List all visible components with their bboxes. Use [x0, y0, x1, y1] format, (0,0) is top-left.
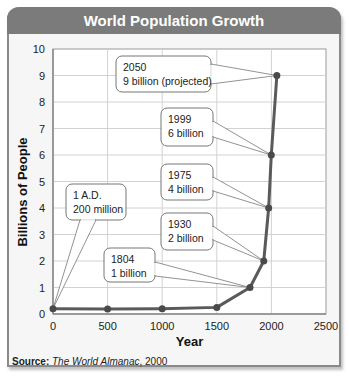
x-axis-label: Year — [176, 334, 203, 349]
data-point — [268, 152, 275, 159]
source-title: The World Almanac — [52, 356, 139, 367]
callout-line2: 4 billion — [168, 183, 204, 195]
y-tick-label: 2 — [39, 255, 45, 267]
callout-line2: 1 billion — [111, 267, 147, 279]
y-tick-label: 1 — [39, 282, 45, 294]
y-tick-label: 4 — [39, 202, 45, 214]
callout-line1: 1930 — [168, 218, 192, 230]
data-point — [104, 305, 111, 312]
y-tick-label: 10 — [33, 43, 45, 55]
data-point — [265, 205, 272, 212]
data-point — [246, 284, 253, 291]
source-year: , 2000 — [139, 356, 167, 367]
data-point — [159, 305, 166, 312]
callout-line1: 1804 — [111, 253, 135, 265]
source-note: Source: The World Almanac, 2000 — [12, 356, 167, 367]
y-tick-label: 3 — [39, 229, 45, 241]
data-point — [50, 305, 57, 312]
data-point — [213, 304, 220, 311]
x-tick-label: 2500 — [314, 320, 338, 332]
line-chart: 01234567891005001000150020002500YearBill… — [0, 0, 349, 381]
callout-line1: 2050 — [123, 61, 147, 73]
callout-line1: 1975 — [168, 169, 192, 181]
x-tick-label: 0 — [50, 320, 56, 332]
y-tick-label: 6 — [39, 149, 45, 161]
callout-line2: 200 million — [73, 203, 123, 215]
data-point — [260, 258, 267, 265]
y-tick-label: 5 — [39, 176, 45, 188]
callout-line1: 1999 — [168, 113, 192, 125]
callout-line2: 2 billion — [168, 232, 204, 244]
y-tick-label: 8 — [39, 96, 45, 108]
y-tick-label: 9 — [39, 70, 45, 82]
callout-line2: 9 billion (projected) — [123, 75, 212, 87]
y-tick-label: 0 — [39, 308, 45, 320]
y-tick-label: 7 — [39, 123, 45, 135]
x-tick-label: 1500 — [205, 320, 229, 332]
x-tick-label: 1000 — [150, 320, 174, 332]
data-point — [273, 72, 280, 79]
y-axis-label: Billions of People — [15, 137, 30, 246]
x-tick-label: 500 — [98, 320, 116, 332]
source-label: Source: — [12, 356, 49, 367]
callout-line2: 6 billion — [168, 127, 204, 139]
callout-line1: 1 A.D. — [73, 189, 102, 201]
x-tick-label: 2000 — [259, 320, 283, 332]
